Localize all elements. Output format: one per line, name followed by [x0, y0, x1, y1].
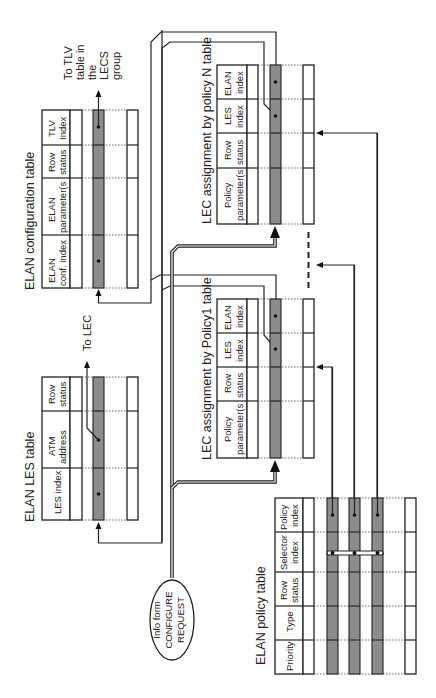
arrow-up-icon — [270, 460, 280, 472]
col-tlv-index-l1: TLV — [46, 120, 57, 137]
svg-text:LES index: LES index — [52, 470, 63, 514]
svg-text:LES: LES — [222, 107, 233, 125]
lec-policy-n-highlight-row — [270, 65, 281, 224]
arrow-left-icon — [316, 364, 323, 370]
col-tlv-index-l2: Index — [57, 117, 68, 140]
elan-policy-table-title: ELAN policy table — [254, 566, 268, 665]
elan-config-table: ELAN configuration table ELAN conf. inde… — [23, 45, 151, 303]
svg-text:parameter(s: parameter(s — [234, 170, 245, 221]
svg-text:index: index — [289, 504, 300, 527]
svg-text:parameter(s: parameter(s — [234, 404, 245, 455]
col-row-status-l1: Row — [46, 153, 57, 172]
info-form-configure-request: Info form CONFIGURE REQUEST — [150, 580, 194, 660]
arrow-up-icon — [270, 226, 280, 238]
policy-highlight-row-1 — [327, 498, 338, 674]
svg-text:To TLV: To TLV — [62, 46, 74, 80]
col-row-status-l2: status — [57, 149, 68, 175]
svg-text:Policy: Policy — [278, 504, 289, 530]
lec-policy-1-highlight-row — [270, 299, 281, 458]
arrow-up-icon — [84, 361, 90, 368]
svg-text:ELAN: ELAN — [222, 71, 233, 96]
svg-text:index: index — [234, 105, 245, 128]
svg-text:LECS: LECS — [98, 51, 110, 80]
svg-text:index: index — [234, 305, 245, 328]
svg-text:Priority: Priority — [284, 641, 295, 671]
svg-text:Policy: Policy — [222, 182, 233, 208]
lec-policy-1-table: LEC assignment by Policy1 table Policy p… — [200, 277, 314, 460]
arrow-left-icon — [316, 130, 323, 136]
svg-text:Selector: Selector — [278, 535, 289, 570]
col-elan-params-l2: parameter(s — [57, 182, 68, 233]
svg-text:index: index — [234, 71, 245, 94]
svg-text:Policy: Policy — [222, 416, 233, 442]
svg-text:LES: LES — [222, 341, 233, 359]
svg-text:REQUEST: REQUEST — [175, 597, 186, 643]
policy-highlight-row-3 — [372, 498, 383, 674]
arrow-up-icon — [96, 289, 102, 296]
col-elan-conf-index-l1: ELAN — [46, 258, 57, 283]
svg-text:ELAN: ELAN — [222, 305, 233, 330]
lec-policy-n-title: LEC assignment by policy N table — [200, 37, 214, 224]
svg-text:Type: Type — [284, 611, 295, 632]
elan-configuration-diagram: ELAN configuration table ELAN conf. inde… — [0, 0, 436, 698]
svg-text:status: status — [234, 372, 245, 398]
svg-text:table in: table in — [74, 45, 86, 80]
arrow-up-icon — [96, 90, 102, 97]
arrow-left-icon — [316, 262, 323, 268]
lec-policy-1-title: LEC assignment by Policy1 table — [200, 277, 214, 460]
svg-text:Row: Row — [46, 385, 57, 404]
svg-text:CONFIGURE: CONFIGURE — [163, 592, 174, 649]
policy-highlight-row-2 — [349, 498, 360, 674]
svg-text:the: the — [86, 65, 98, 80]
svg-text:To LEC: To LEC — [81, 315, 93, 351]
svg-text:index: index — [234, 339, 245, 362]
svg-text:index: index — [289, 541, 300, 564]
svg-text:Row: Row — [222, 141, 233, 160]
arrow-up-icon — [96, 522, 102, 529]
lec-policy-n-table: LEC assignment by policy N table Policy … — [200, 37, 314, 292]
elan-les-highlight-row — [93, 377, 104, 520]
svg-text:Row: Row — [278, 581, 289, 600]
elan-policy-table: ELAN policy table Priority Type Row stat… — [254, 498, 416, 674]
col-elan-conf-index-l2: conf. index — [57, 240, 68, 286]
svg-text:status: status — [57, 381, 68, 407]
svg-text:status: status — [289, 577, 300, 603]
elan-les-table-title: ELAN LES table — [23, 432, 37, 522]
svg-text:group: group — [110, 52, 122, 80]
svg-text:Info form: Info form — [151, 601, 162, 639]
svg-text:ATM: ATM — [46, 437, 57, 456]
col-elan-params-l1: ELAN — [46, 197, 57, 222]
elan-config-table-title: ELAN configuration table — [23, 152, 37, 290]
svg-text:address: address — [57, 430, 68, 464]
svg-text:Row: Row — [222, 374, 233, 393]
svg-text:status: status — [234, 139, 245, 165]
